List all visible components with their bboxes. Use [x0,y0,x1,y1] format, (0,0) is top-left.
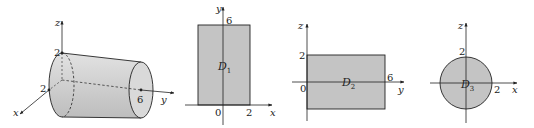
y-axis-label: y [397,84,404,95]
d3-panel: z x 2 2 D3 [430,20,518,123]
right-label: 2 [246,107,252,118]
cylinder-panel: z x y 2 2 6 [13,17,174,118]
d2-panel: z y 2 0 6 D2 [292,20,404,121]
origin-label: 0 [300,83,306,94]
y-length-point [140,89,143,92]
z-axis-label: z [457,20,464,31]
d1-panel: y x 6 0 2 D1 [185,3,276,125]
x-radius-point [48,89,51,92]
z-axis-label: z [297,20,304,31]
x-radius-label: 2 [40,83,46,94]
z-axis-label: z [54,17,61,28]
y-length-label: 6 [137,94,143,105]
right-label: 2 [494,84,500,95]
y-axis-label: y [215,3,222,14]
origin-label: 0 [215,107,221,118]
top-label: 2 [299,50,305,61]
z-radius-label: 2 [54,47,60,58]
z-radius-point [61,52,64,55]
x-axis-label: x [512,84,518,95]
projection-figure: z x y 2 2 6 y x 6 0 2 D1 [0,0,534,128]
x-axis-label: x [13,107,19,118]
top-label: 6 [226,15,232,26]
right-label: 6 [387,72,393,83]
top-label: 2 [459,46,465,57]
x-axis-label: x [270,107,276,118]
y-axis-label: y [160,94,167,105]
